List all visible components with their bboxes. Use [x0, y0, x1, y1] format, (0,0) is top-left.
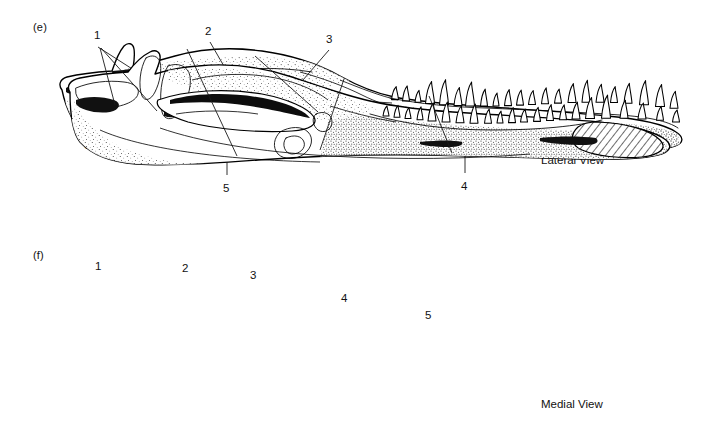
- tooth: [456, 106, 464, 123]
- tooth: [497, 111, 503, 123]
- callout-number-2: 2: [182, 263, 188, 275]
- tooth: [521, 109, 528, 122]
- tooth: [428, 103, 436, 121]
- callout-number-1: 1: [95, 261, 101, 273]
- panel-letter-f: (f): [33, 249, 44, 261]
- tooth: [586, 98, 595, 119]
- tooth: [470, 104, 478, 123]
- tooth: [509, 108, 516, 123]
- tooth: [602, 95, 611, 118]
- callout-number-3: 3: [250, 270, 256, 282]
- tooth: [572, 102, 580, 119]
- tooth: [673, 110, 680, 122]
- medial-view-drawing: [0, 0, 707, 193]
- tooth: [620, 100, 628, 118]
- callout-number-5: 5: [425, 310, 431, 322]
- tooth: [638, 103, 646, 119]
- tooth: [442, 102, 450, 122]
- panel-medial-view: (f) 1 2 3 4 5 Medial View: [0, 230, 707, 423]
- tooth: [560, 105, 567, 120]
- anatomical-figure: (e) 1 2 3 4 5 6 Lateral View: [0, 0, 707, 423]
- medial-view-caption: Medial View: [541, 398, 603, 410]
- tooth: [657, 106, 664, 120]
- tooth: [547, 105, 554, 121]
- tooth: [485, 109, 492, 123]
- tooth: [534, 107, 541, 121]
- callout-number-4: 4: [341, 293, 347, 305]
